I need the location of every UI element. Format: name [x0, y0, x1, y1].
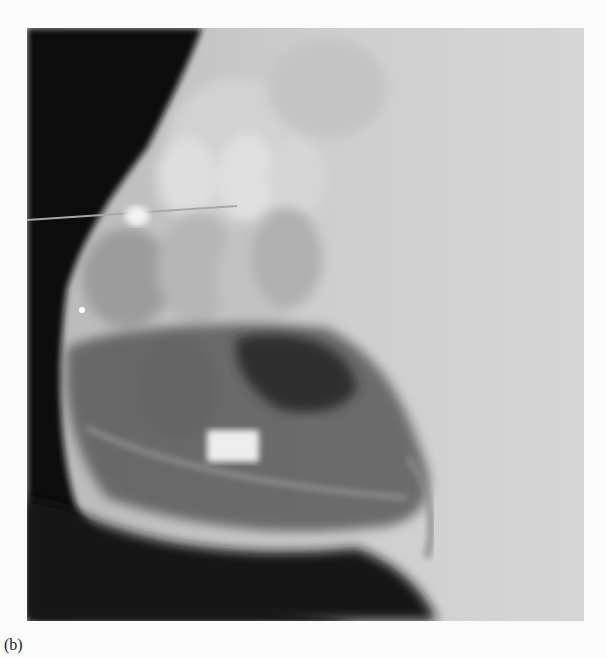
figure-caption: (b)	[4, 636, 23, 654]
radiograph-drawing	[27, 28, 584, 621]
radiopaque-marker	[207, 430, 259, 462]
radiograph-image	[27, 28, 584, 621]
